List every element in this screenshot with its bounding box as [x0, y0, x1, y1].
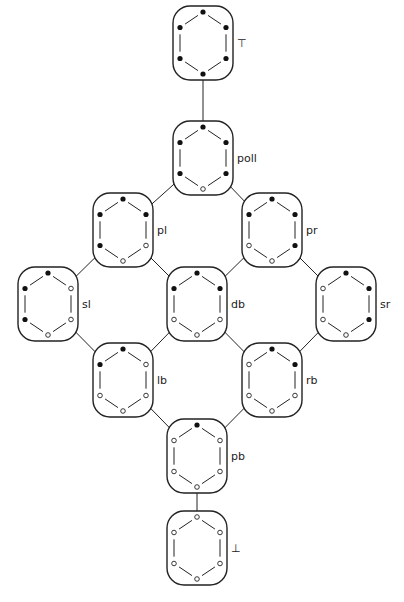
- node-label: lb: [157, 374, 167, 387]
- node-top: ⊤: [173, 6, 247, 80]
- filled-dot-icon: [120, 346, 125, 351]
- filled-dot-icon: [200, 9, 205, 14]
- node-label: rb: [306, 374, 318, 387]
- node-sl: sl: [18, 267, 91, 341]
- open-dot-icon: [218, 317, 223, 322]
- node-pl: pl: [93, 193, 167, 267]
- node-box: [242, 193, 302, 267]
- filled-dot-icon: [143, 212, 148, 217]
- node-label: sr: [380, 298, 391, 311]
- node-label: pb: [231, 450, 245, 463]
- node-box: [93, 193, 153, 267]
- node-db: db: [167, 267, 245, 341]
- filled-dot-icon: [177, 25, 182, 30]
- open-dot-icon: [201, 187, 206, 192]
- node-sr: sr: [316, 267, 391, 341]
- open-dot-icon: [321, 286, 326, 291]
- filled-dot-icon: [171, 286, 176, 291]
- open-dot-icon: [98, 393, 103, 398]
- filled-dot-icon: [45, 270, 50, 275]
- filled-dot-icon: [97, 362, 102, 367]
- open-dot-icon: [218, 469, 223, 474]
- filled-dot-icon: [292, 243, 297, 248]
- node-label: pr: [306, 224, 318, 237]
- open-dot-icon: [218, 438, 223, 443]
- filled-dot-icon: [292, 212, 297, 217]
- open-dot-icon: [46, 333, 51, 338]
- open-dot-icon: [195, 333, 200, 338]
- filled-dot-icon: [366, 317, 371, 322]
- open-dot-icon: [195, 485, 200, 490]
- filled-dot-icon: [269, 346, 274, 351]
- open-dot-icon: [293, 393, 298, 398]
- open-dot-icon: [144, 243, 149, 248]
- open-dot-icon: [172, 561, 177, 566]
- filled-dot-icon: [97, 212, 102, 217]
- node-label: poll: [237, 152, 257, 165]
- open-dot-icon: [270, 259, 275, 264]
- node-lb: lb: [93, 343, 167, 417]
- filled-dot-icon: [22, 317, 27, 322]
- node-bot: ⊥: [167, 511, 241, 585]
- filled-dot-icon: [177, 56, 182, 61]
- filled-dot-icon: [246, 212, 251, 217]
- open-dot-icon: [144, 362, 149, 367]
- open-dot-icon: [121, 409, 126, 414]
- open-dot-icon: [321, 317, 326, 322]
- open-dot-icon: [247, 393, 252, 398]
- node-label: ⊥: [231, 542, 241, 555]
- filled-dot-icon: [223, 140, 228, 145]
- open-dot-icon: [121, 259, 126, 264]
- node-box: [173, 6, 233, 80]
- node-box: [167, 419, 227, 493]
- filled-dot-icon: [223, 25, 228, 30]
- open-dot-icon: [69, 317, 74, 322]
- open-dot-icon: [69, 286, 74, 291]
- open-dot-icon: [344, 333, 349, 338]
- node-label: db: [231, 298, 245, 311]
- node-box: [93, 343, 153, 417]
- node-box: [167, 511, 227, 585]
- node-pb: pb: [167, 419, 245, 493]
- filled-dot-icon: [269, 196, 274, 201]
- node-box: [316, 267, 376, 341]
- filled-dot-icon: [343, 270, 348, 275]
- open-dot-icon: [172, 317, 177, 322]
- open-dot-icon: [144, 393, 149, 398]
- open-dot-icon: [247, 243, 252, 248]
- node-rb: rb: [242, 343, 318, 417]
- open-dot-icon: [195, 515, 200, 520]
- node-box: [167, 267, 227, 341]
- filled-dot-icon: [223, 171, 228, 176]
- node-box: [242, 343, 302, 417]
- lattice-diagram: ⊤pollplprsldbsrlbrbpb⊥: [0, 0, 404, 602]
- node-box: [173, 121, 233, 195]
- open-dot-icon: [195, 577, 200, 582]
- filled-dot-icon: [22, 286, 27, 291]
- filled-dot-icon: [200, 124, 205, 129]
- filled-dot-icon: [97, 243, 102, 248]
- filled-dot-icon: [194, 270, 199, 275]
- node-pr: pr: [242, 193, 318, 267]
- open-dot-icon: [172, 438, 177, 443]
- filled-dot-icon: [177, 140, 182, 145]
- open-dot-icon: [270, 409, 275, 414]
- node-box: [18, 267, 78, 341]
- node-poll: poll: [173, 121, 257, 195]
- open-dot-icon: [218, 561, 223, 566]
- filled-dot-icon: [177, 171, 182, 176]
- filled-dot-icon: [223, 56, 228, 61]
- open-dot-icon: [247, 362, 252, 367]
- open-dot-icon: [218, 530, 223, 535]
- open-dot-icon: [172, 469, 177, 474]
- node-label: pl: [157, 224, 167, 237]
- filled-dot-icon: [366, 286, 371, 291]
- filled-dot-icon: [120, 196, 125, 201]
- node-label: ⊤: [237, 37, 247, 50]
- nodes: ⊤pollplprsldbsrlbrbpb⊥: [18, 6, 391, 585]
- filled-dot-icon: [200, 71, 205, 76]
- filled-dot-icon: [194, 422, 199, 427]
- open-dot-icon: [172, 530, 177, 535]
- filled-dot-icon: [217, 286, 222, 291]
- node-label: sl: [82, 298, 91, 311]
